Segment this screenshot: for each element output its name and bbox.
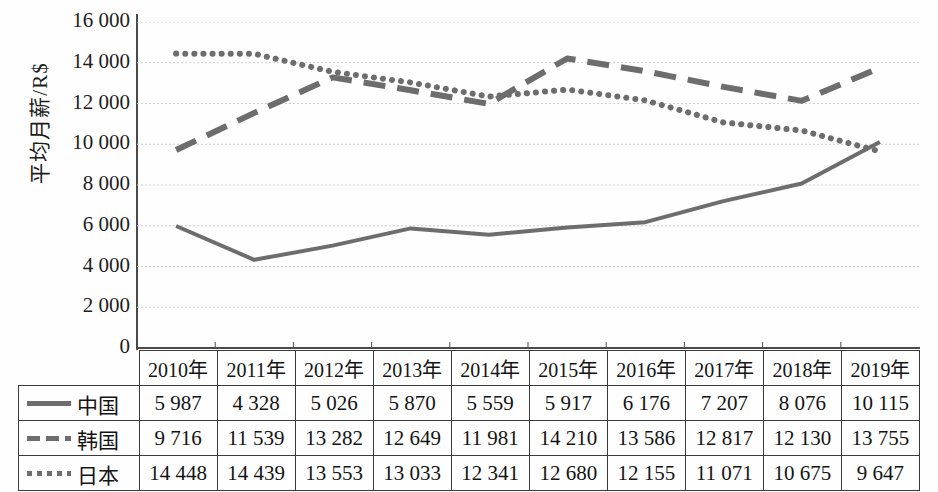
table-cell: 14 448 (139, 456, 217, 491)
table-row: 日本14 44814 43913 55313 03312 34112 68012… (19, 456, 920, 491)
table-cell: 8 076 (763, 386, 841, 421)
y-axis-tick: 6 000 (10, 212, 130, 237)
table-cell: 5 870 (373, 386, 451, 421)
series-line-韩国 (176, 58, 880, 150)
legend-line-swatch (27, 401, 71, 406)
y-axis-tick: 4 000 (10, 253, 130, 278)
table-col-header: 2017年 (685, 351, 763, 386)
plot-area (137, 22, 919, 348)
table-cell: 12 649 (373, 421, 451, 456)
series-line-中国 (176, 142, 880, 260)
table-col-header: 2012年 (295, 351, 373, 386)
y-axis-tick: 8 000 (10, 171, 130, 196)
chart-figure: 平均月薪/R$ 16 00014 00012 00010 0008 0006 0… (0, 0, 938, 492)
table-row: 韩国9 71611 53913 28212 64911 98114 21013 … (19, 421, 920, 456)
table-col-header: 2014年 (451, 351, 529, 386)
y-axis-tick: 10 000 (10, 130, 130, 155)
table-cell: 13 586 (607, 421, 685, 456)
table-cell: 9 716 (139, 421, 217, 456)
table-row: 中国5 9874 3285 0265 8705 5595 9176 1767 2… (19, 386, 920, 421)
table-cell: 12 130 (763, 421, 841, 456)
y-axis-tick: 2 000 (10, 293, 130, 318)
table-cell: 5 917 (529, 386, 607, 421)
table-cell: 5 026 (295, 386, 373, 421)
table-cell: 14 439 (217, 456, 295, 491)
legend-entry-韩国: 韩国 (19, 421, 140, 456)
table-cell: 11 539 (217, 421, 295, 456)
legend-label: 韩国 (77, 424, 119, 454)
table-cell: 12 680 (529, 456, 607, 491)
table-cell: 13 033 (373, 456, 451, 491)
table-cell: 7 207 (685, 386, 763, 421)
y-axis-tick: 12 000 (10, 90, 130, 115)
table-cell: 13 282 (295, 421, 373, 456)
table-cell: 9 647 (841, 456, 919, 491)
table-header-row: 2010年2011年2012年2013年2014年2015年2016年2017年… (19, 351, 920, 386)
table-cell: 5 559 (451, 386, 529, 421)
legend-label: 日本 (77, 459, 119, 489)
table-cell: 12 155 (607, 456, 685, 491)
table-cell: 13 553 (295, 456, 373, 491)
table-cell: 14 210 (529, 421, 607, 456)
data-table-wrapper: 2010年2011年2012年2013年2014年2015年2016年2017年… (18, 350, 920, 491)
table-col-header: 2010年 (139, 351, 217, 386)
y-axis-tick: 16 000 (10, 8, 130, 33)
table-corner-cell (19, 351, 140, 386)
legend-entry-日本: 日本 (19, 456, 140, 491)
table-cell: 12 817 (685, 421, 763, 456)
y-axis-tick: 14 000 (10, 49, 130, 74)
table-cell: 6 176 (607, 386, 685, 421)
y-axis-tick-labels: 16 00014 00012 00010 0008 0006 0004 0002… (0, 0, 130, 360)
table-cell: 4 328 (217, 386, 295, 421)
table-cell: 10 115 (841, 386, 919, 421)
legend-label: 中国 (77, 389, 119, 419)
table-col-header: 2016年 (607, 351, 685, 386)
table-col-header: 2018年 (763, 351, 841, 386)
legend-line-swatch (27, 436, 71, 441)
table-col-header: 2013年 (373, 351, 451, 386)
data-table: 2010年2011年2012年2013年2014年2015年2016年2017年… (18, 350, 920, 491)
table-col-header: 2015年 (529, 351, 607, 386)
table-cell: 12 341 (451, 456, 529, 491)
table-cell: 11 981 (451, 421, 529, 456)
table-cell: 11 071 (685, 456, 763, 491)
legend-line-swatch (27, 471, 71, 476)
table-cell: 13 755 (841, 421, 919, 456)
table-cell: 10 675 (763, 456, 841, 491)
table-col-header: 2011年 (217, 351, 295, 386)
line-plot-svg (137, 22, 919, 348)
legend-entry-中国: 中国 (19, 386, 140, 421)
table-cell: 5 987 (139, 386, 217, 421)
table-col-header: 2019年 (841, 351, 919, 386)
table-body: 中国5 9874 3285 0265 8705 5595 9176 1767 2… (19, 386, 920, 491)
